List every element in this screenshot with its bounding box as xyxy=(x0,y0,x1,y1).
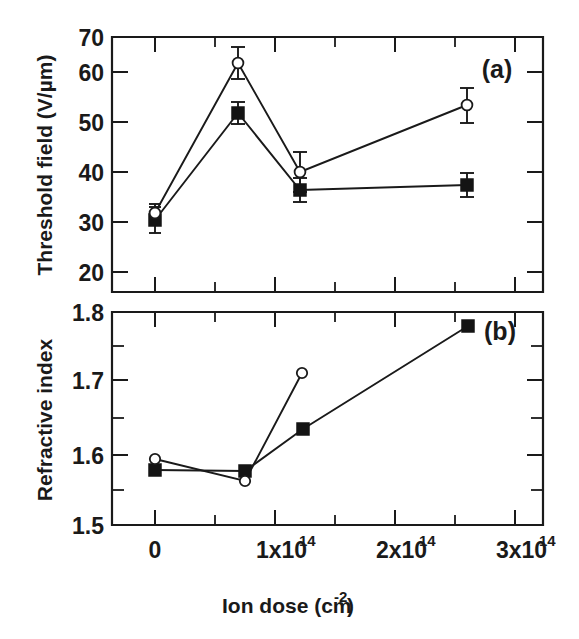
panel-b-x-ticks-top xyxy=(155,312,515,327)
panel-b-x-ticks-bottom xyxy=(155,510,515,525)
panel-a-ytick-20: 20 xyxy=(78,260,104,286)
panel-b-series-filled-square-line xyxy=(155,326,468,471)
panel-a-x-ticks-top xyxy=(155,37,515,52)
panel-b-ytick-1-5: 1.5 xyxy=(72,513,104,539)
x-axis-title-close-paren: ) xyxy=(347,594,354,617)
panel-b-ytick-1-7: 1.7 xyxy=(72,368,104,394)
panel-b-markers-filled-square xyxy=(149,320,474,477)
panel-b-markers-open-circle xyxy=(150,368,307,486)
panel-b-y-axis-title: Refractive index xyxy=(33,339,56,502)
panel-b-ytick-1-6: 1.6 xyxy=(72,443,104,469)
panel-b-label: (b) xyxy=(484,317,516,345)
panel-a-y-axis-title: Threshold field (V/µm) xyxy=(33,55,56,276)
panel-a-ytick-30: 30 xyxy=(78,210,104,236)
panel-a-x-ticks-bottom xyxy=(155,277,515,292)
panel-a-ytick-40: 40 xyxy=(78,160,104,186)
panel-a-ytick-70: 70 xyxy=(78,25,104,51)
panel-b-y-tick-labels: 1.8 1.7 1.6 1.5 xyxy=(72,300,104,539)
panel-a-y-tick-labels: 70 60 50 40 30 20 xyxy=(78,25,104,286)
panel-a-ytick-60: 60 xyxy=(78,60,104,86)
panel-b-y-ticks xyxy=(112,312,128,525)
x-axis-title-exponent: -2 xyxy=(334,588,347,605)
xtick-exponent-3: 14 xyxy=(539,532,556,549)
panel-b: 1.8 1.7 1.6 1.5 Refractive index (b) xyxy=(33,300,543,539)
panel-a: 70 60 50 40 30 20 Threshold field (V/µm)… xyxy=(33,25,543,292)
panel-a-y-ticks-right xyxy=(527,72,543,272)
panel-b-frame xyxy=(112,312,543,525)
xtick-label-0: 0 xyxy=(149,537,162,563)
x-axis-title-main: Ion dose (cm xyxy=(222,594,352,617)
figure-container: 70 60 50 40 30 20 Threshold field (V/µm)… xyxy=(0,0,579,639)
panel-a-label: (a) xyxy=(482,55,513,83)
panel-a-y-ticks xyxy=(112,37,128,272)
chart-svg: 70 60 50 40 30 20 Threshold field (V/µm)… xyxy=(0,0,579,639)
xtick-exponent-1: 14 xyxy=(299,532,316,549)
panel-b-ytick-1-8: 1.8 xyxy=(72,300,104,326)
x-axis-title: Ion dose (cm -2 ) xyxy=(222,588,354,617)
x-axis-tick-labels: 0 1x10 14 2x10 14 3x10 14 xyxy=(149,532,557,563)
panel-b-y-ticks-right xyxy=(527,312,543,490)
panel-b-series-open-circle-line xyxy=(155,373,302,481)
panel-a-frame xyxy=(112,37,543,292)
panel-a-ytick-50: 50 xyxy=(78,110,104,136)
panel-a-markers-open-circle xyxy=(150,58,473,219)
xtick-exponent-2: 14 xyxy=(419,532,436,549)
